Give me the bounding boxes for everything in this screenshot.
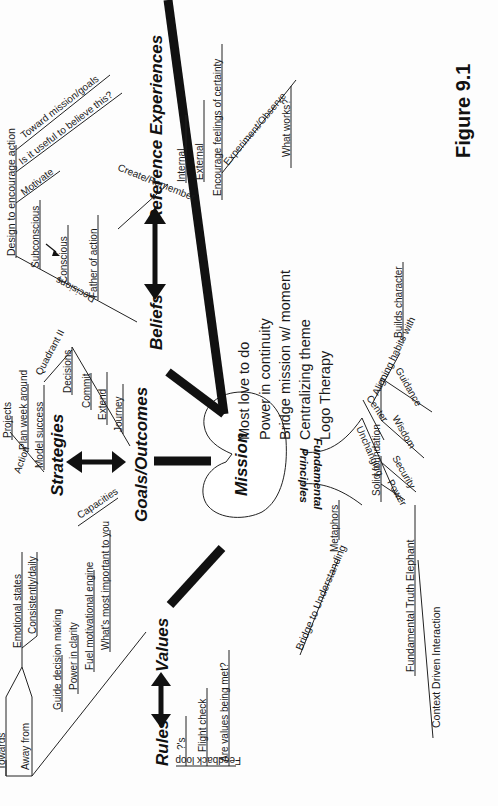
connector-values bbox=[170, 548, 222, 605]
goals-item: Extend bbox=[97, 389, 108, 420]
towards-label: Towards bbox=[0, 733, 7, 770]
consistently-stem bbox=[22, 636, 37, 648]
consistently-label: Consistently/daily bbox=[27, 556, 38, 634]
mind-map-figure: Mission Most love to do Power in continu… bbox=[0, 0, 498, 806]
goals-item: Commit bbox=[81, 373, 92, 408]
hub-rules: Rules bbox=[153, 720, 172, 766]
fundamental-truth-label: Fundamental Truth Elephant bbox=[404, 539, 416, 672]
external-label: External bbox=[194, 143, 205, 180]
hub-goals-outcomes: Goals/Outcomes bbox=[132, 387, 151, 522]
values-item: Guide decision making bbox=[52, 609, 63, 710]
conscious-label: Conscious bbox=[58, 236, 69, 283]
figure-label: Figure 9.1 bbox=[452, 64, 474, 158]
motivate-label: Motivate bbox=[19, 166, 56, 198]
emotional-states-label: Emotional states bbox=[12, 574, 23, 648]
values-item: What's most important to you bbox=[100, 521, 111, 650]
mission-item: Logo Therapy bbox=[317, 350, 333, 440]
values-item: Fuel motivational engine bbox=[84, 561, 95, 670]
plan-week-label: Plan week around bbox=[18, 370, 29, 450]
principles-label-1: Fundamental bbox=[312, 438, 324, 510]
experiment-observe-label: Experiment/Observe bbox=[221, 90, 288, 167]
father-of-action-label: Father of action bbox=[88, 229, 99, 298]
guidance-label: Guidance bbox=[393, 366, 424, 409]
mission-item: Most love to do bbox=[236, 342, 252, 440]
solid-foundation-label: Solid foundation bbox=[371, 424, 382, 496]
principles-flare-bottom bbox=[302, 484, 362, 505]
bridge-understanding-label: Bridge to Understanding bbox=[293, 543, 348, 652]
model-success-label: Model success bbox=[34, 402, 45, 468]
hub-values: Values bbox=[153, 618, 172, 672]
goals-item: Journey bbox=[113, 396, 124, 432]
feedback-loop-label: Feedback loop bbox=[175, 755, 241, 766]
rules-item: ?'s bbox=[176, 738, 187, 750]
mission-item: Centralizing theme bbox=[297, 319, 313, 440]
projects-label: Projects bbox=[2, 402, 13, 438]
mission-items: Most love to do Power in continuity Brid… bbox=[236, 270, 333, 440]
principles-label-2: Principles bbox=[298, 448, 310, 503]
hub-beliefs: Beliefs bbox=[147, 294, 166, 350]
subconscious-label: Subconscious bbox=[30, 206, 41, 268]
design-label: Design to encourage action bbox=[5, 128, 17, 256]
mission-label: Mission bbox=[232, 433, 251, 496]
goals-item: Decisions bbox=[62, 350, 73, 393]
double-arrow-values-rules bbox=[151, 672, 171, 728]
internal-label: Internal bbox=[176, 149, 187, 182]
rules-item: Are values being met? bbox=[219, 662, 230, 762]
what-works-label: What works? bbox=[281, 99, 292, 157]
away-from-label: Away from bbox=[20, 723, 31, 770]
builds-character-label: Builds character bbox=[393, 266, 404, 338]
values-item: Power in clarity bbox=[68, 622, 79, 690]
capacities-label: Capacities bbox=[75, 485, 120, 520]
center-label: Center bbox=[364, 393, 390, 425]
context-driven-label: Context Driven Interaction bbox=[430, 606, 442, 728]
hub-strategies: Strategies bbox=[48, 414, 67, 496]
double-arrow-goals-strategies bbox=[66, 451, 126, 473]
rules-item: Flight check bbox=[197, 698, 208, 752]
mission-item: Bridge mission w/ moment bbox=[277, 270, 293, 440]
mission-item: Power in continuity bbox=[257, 318, 273, 440]
certainty-label: Encourage feelings of certainty bbox=[212, 59, 223, 196]
